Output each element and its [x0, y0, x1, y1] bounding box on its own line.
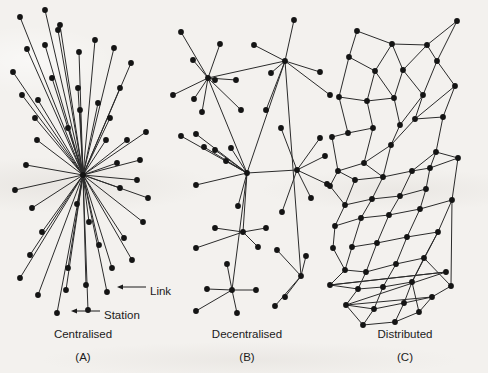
link: [394, 70, 403, 98]
station-node: [397, 122, 403, 128]
link: [207, 289, 232, 290]
station-node: [27, 252, 33, 258]
link: [366, 264, 396, 272]
station-node: [361, 160, 367, 166]
link: [254, 45, 285, 61]
station-node: [349, 244, 355, 250]
station-node: [443, 269, 449, 275]
station-node: [224, 261, 230, 267]
link: [364, 163, 383, 177]
station-node: [317, 69, 323, 75]
link-callout-arrow: [117, 284, 146, 289]
link: [396, 237, 407, 264]
station-node: [452, 83, 458, 89]
station-node: [327, 282, 333, 288]
link: [215, 228, 243, 232]
station-node: [372, 68, 378, 74]
panel-c-caption: Distributed: [378, 328, 433, 340]
station-node: [455, 155, 461, 161]
link: [281, 128, 297, 170]
station-node: [369, 196, 375, 202]
link: [420, 189, 426, 209]
link: [83, 40, 95, 175]
station-node: [12, 187, 18, 193]
link: [375, 71, 394, 98]
station-node: [178, 133, 184, 139]
station-node: [234, 310, 240, 316]
station-node: [282, 58, 288, 64]
station-node: [235, 203, 241, 209]
link: [407, 209, 420, 237]
station-node: [391, 95, 397, 101]
station-node: [409, 168, 415, 174]
station-node: [282, 294, 288, 300]
station-node: [86, 219, 92, 225]
link: [372, 177, 383, 199]
link: [345, 199, 372, 205]
panel-b-letter: (B): [239, 351, 255, 363]
station-node: [416, 309, 422, 315]
station-node: [327, 183, 333, 189]
link: [285, 61, 320, 72]
link: [226, 161, 247, 173]
link: [400, 171, 412, 196]
link-annotation-label: Link: [150, 285, 171, 297]
link: [389, 196, 400, 215]
station-node: [397, 193, 403, 199]
station-node: [434, 58, 440, 64]
decentralised-edges: [173, 20, 330, 313]
link: [208, 61, 285, 78]
link: [366, 243, 377, 272]
station-node: [401, 300, 407, 306]
link: [389, 209, 420, 215]
station-node: [244, 170, 250, 176]
station-node: [129, 257, 135, 263]
link: [400, 95, 423, 125]
station-node: [170, 92, 176, 98]
link: [297, 170, 327, 184]
link: [68, 175, 83, 268]
station-node: [96, 242, 102, 248]
link: [451, 200, 452, 286]
station-node: [409, 279, 415, 285]
link: [330, 186, 345, 205]
station-node: [228, 145, 234, 151]
station-node: [303, 253, 309, 259]
link: [407, 232, 438, 237]
station-node: [76, 49, 82, 55]
station-node: [449, 197, 455, 203]
link: [339, 97, 367, 101]
station-node: [263, 107, 269, 113]
station-node: [332, 223, 338, 229]
link: [367, 71, 375, 101]
station-node: [145, 195, 151, 201]
link: [346, 305, 374, 309]
station-node: [358, 215, 364, 221]
link: [193, 60, 208, 78]
station-node: [424, 42, 430, 48]
station-node: [253, 287, 259, 293]
station-node: [107, 115, 113, 121]
station-node: [55, 27, 61, 33]
station-node: [128, 60, 134, 66]
station-node: [39, 229, 45, 235]
station-node: [92, 37, 98, 43]
station-node: [427, 165, 433, 171]
station-node: [255, 244, 261, 250]
station-node: [298, 273, 304, 279]
station-node: [83, 282, 89, 288]
station-node: [212, 147, 218, 153]
station-node: [268, 70, 274, 76]
station-node: [346, 54, 352, 60]
station-node: [32, 115, 38, 121]
link: [412, 258, 424, 282]
station-node: [121, 235, 127, 241]
station-node: [327, 92, 333, 98]
station-node: [240, 229, 246, 235]
link: [415, 117, 443, 119]
station-node: [193, 131, 199, 137]
station-node: [420, 92, 426, 98]
station-node: [330, 245, 336, 251]
link: [208, 44, 220, 78]
station-node: [386, 212, 392, 218]
